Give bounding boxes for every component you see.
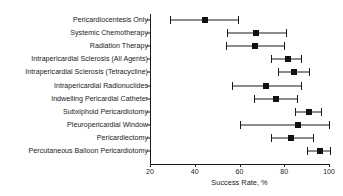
- x-axis-tick-label: 100: [323, 168, 335, 176]
- category-label: Pericardiectomy: [0, 134, 148, 142]
- point-estimate-marker: [273, 96, 279, 102]
- category-axis-labels: Pericardiocentesis OnlySystemic Chemothe…: [0, 0, 148, 196]
- category-label: Percutaneous Balloon Pericardiotomy: [0, 147, 148, 155]
- category-label: Pleuropericardial Window: [0, 121, 148, 129]
- interval-cap-high: [301, 55, 302, 63]
- interval-cap-low: [254, 95, 255, 103]
- category-label: Subxiphoid Pericardiotomy: [0, 108, 148, 116]
- interval-cap-high: [286, 29, 287, 37]
- category-label: Intrapericardial Sclerosis (Tetracycline…: [0, 68, 148, 76]
- x-axis-tick-label: 40: [191, 168, 199, 176]
- forest-row: [150, 40, 343, 52]
- interval-cap-low: [240, 121, 241, 129]
- point-estimate-marker: [252, 43, 258, 49]
- interval-cap-low: [278, 68, 279, 76]
- interval-cap-low: [295, 108, 296, 116]
- interval-cap-low: [271, 55, 272, 63]
- interval-cap-low: [226, 42, 227, 50]
- confidence-interval-line: [240, 124, 330, 125]
- category-label: Indwelling Pericardial Catheter: [0, 95, 148, 103]
- point-estimate-marker: [253, 30, 259, 36]
- interval-cap-low: [271, 134, 272, 142]
- interval-cap-high: [309, 68, 310, 76]
- x-axis-tick-label: 80: [280, 168, 288, 176]
- interval-cap-high: [321, 108, 322, 116]
- category-label: Intrapericardial Sclerosis (All Agents): [0, 55, 148, 63]
- point-estimate-marker: [295, 122, 301, 128]
- point-estimate-marker: [285, 56, 291, 62]
- interval-cap-high: [329, 121, 330, 129]
- point-estimate-marker: [291, 69, 297, 75]
- point-estimate-marker: [288, 135, 294, 141]
- interval-cap-high: [313, 134, 314, 142]
- x-axis-tick: [284, 164, 285, 167]
- category-label: Pericardiocentesis Only: [0, 16, 148, 24]
- interval-cap-high: [301, 82, 302, 90]
- forest-row: [150, 132, 343, 144]
- forest-row: [150, 66, 343, 78]
- point-estimate-marker: [306, 109, 312, 115]
- forest-row: [150, 14, 343, 26]
- interval-cap-low: [227, 29, 228, 37]
- x-axis-tick: [150, 164, 151, 167]
- interval-cap-low: [232, 82, 233, 90]
- category-label: Radiation Therapy: [0, 42, 148, 50]
- x-axis-tick-label: 60: [236, 168, 244, 176]
- x-axis-title: Success Rate, %: [150, 178, 329, 187]
- forest-row: [150, 145, 343, 157]
- interval-cap-low: [170, 16, 171, 24]
- x-axis-tick: [329, 164, 330, 167]
- forest-row: [150, 80, 343, 92]
- interval-cap-low: [307, 147, 308, 155]
- category-label: Intrapericardial Radionuclides: [0, 82, 148, 90]
- forest-row: [150, 119, 343, 131]
- forest-row: [150, 53, 343, 65]
- interval-cap-high: [284, 42, 285, 50]
- point-estimate-marker: [263, 83, 269, 89]
- interval-cap-high: [238, 16, 239, 24]
- forest-row: [150, 27, 343, 39]
- point-estimate-marker: [317, 148, 323, 154]
- x-axis-tick: [240, 164, 241, 167]
- forest-plot-figure: Pericardiocentesis OnlySystemic Chemothe…: [0, 0, 343, 196]
- point-estimate-marker: [202, 17, 208, 23]
- interval-cap-high: [330, 147, 331, 155]
- x-axis-tick-label: 20: [146, 168, 154, 176]
- forest-row: [150, 106, 343, 118]
- forest-row: [150, 93, 343, 105]
- x-axis-tick: [195, 164, 196, 167]
- plot-area: 20406080100 Success Rate, %: [150, 0, 343, 196]
- category-label: Systemic Chemotherapy: [0, 29, 148, 37]
- interval-cap-high: [297, 95, 298, 103]
